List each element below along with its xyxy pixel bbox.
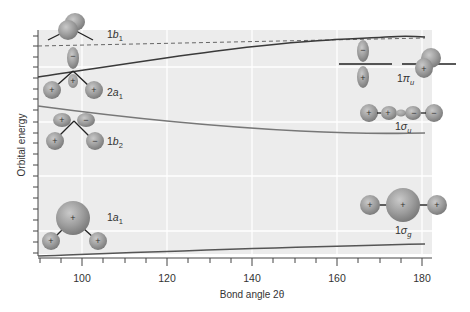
orbital-1b1-bent [48, 13, 93, 40]
svg-text:−: − [70, 51, 75, 61]
x-tick-100: 100 [73, 272, 91, 284]
svg-text:+: + [49, 85, 54, 95]
svg-text:+: + [70, 213, 75, 223]
y-axis [33, 30, 38, 256]
y-axis-title: Orbital energy [16, 114, 27, 177]
svg-text:+: + [91, 85, 96, 95]
svg-text:+: + [59, 115, 64, 125]
x-axis [38, 258, 432, 266]
svg-text:+: + [360, 73, 365, 83]
svg-text:−: − [411, 108, 416, 118]
x-axis-title: Bond angle 2θ [220, 289, 285, 300]
svg-text:−: − [92, 136, 97, 146]
walsh-diagram: Orbital energy 100 120 140 160 180 Bond … [0, 0, 470, 312]
svg-text:+: + [70, 76, 75, 86]
svg-text:−: − [360, 45, 365, 55]
svg-text:−: − [83, 115, 88, 125]
svg-text:+: + [366, 108, 371, 118]
svg-text:+: + [367, 200, 372, 210]
svg-text:+: + [421, 64, 426, 74]
svg-text:+: + [385, 108, 390, 118]
svg-text:+: + [52, 136, 57, 146]
x-tick-140: 140 [243, 272, 261, 284]
svg-text:+: + [400, 200, 405, 210]
x-tick-120: 120 [158, 272, 176, 284]
svg-text:+: + [434, 200, 439, 210]
x-tick-160: 160 [328, 272, 346, 284]
svg-text:−: − [431, 108, 436, 118]
svg-text:+: + [95, 236, 100, 246]
svg-text:+: + [48, 236, 53, 246]
x-tick-180: 180 [413, 272, 431, 284]
